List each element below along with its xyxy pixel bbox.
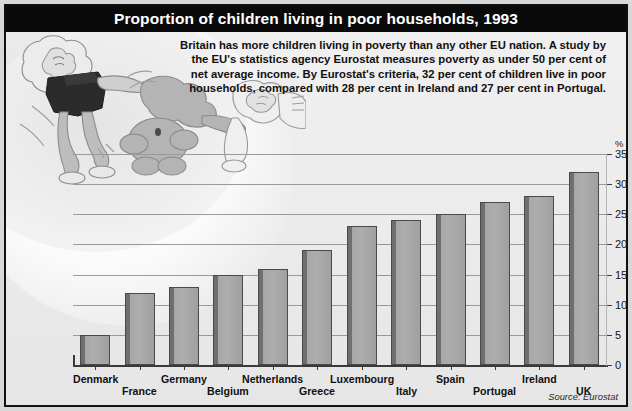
bar-netherlands <box>258 269 288 365</box>
x-axis-label-denmark: Denmark <box>73 373 118 385</box>
y-tick <box>607 335 612 336</box>
y-axis-label-30: 30 <box>615 179 626 190</box>
bar-spain <box>436 214 466 365</box>
bar-face <box>169 287 199 365</box>
x-axis-label-ireland: Ireland <box>522 373 557 385</box>
y-tick <box>607 365 612 366</box>
y-tick <box>607 244 612 245</box>
bar-face <box>436 214 466 365</box>
bar-chart: DenmarkFranceGermanyBelgiumNetherlandsGr… <box>6 32 626 405</box>
bar-face <box>480 202 510 365</box>
y-axis-label-15: 15 <box>615 270 626 281</box>
y-axis-label-0: 0 <box>615 360 621 371</box>
content-panel: Britain has more children living in pove… <box>6 32 626 405</box>
x-axis-label-netherlands: Netherlands <box>242 373 303 385</box>
gridline <box>73 184 606 185</box>
y-axis-label-5: 5 <box>615 330 621 341</box>
x-axis-label-germany: Germany <box>161 373 207 385</box>
page-title: Proportion of children living in poor ho… <box>6 6 626 32</box>
bar-belgium <box>213 275 243 365</box>
x-axis-line <box>73 365 608 367</box>
bar-denmark <box>80 335 110 365</box>
title-bar: Proportion of children living in poor ho… <box>6 6 626 32</box>
y-tick <box>607 214 612 215</box>
bar-portugal <box>480 202 510 365</box>
gridline <box>73 154 606 155</box>
bar-face <box>80 335 110 365</box>
source-note: Source: Eurostat <box>548 391 618 402</box>
x-axis-label-spain: Spain <box>436 373 465 385</box>
x-axis-label-belgium: Belgium <box>207 385 249 397</box>
y-tick <box>607 305 612 306</box>
x-axis-label-france: France <box>122 385 157 397</box>
y-axis-unit-label: % <box>615 138 623 149</box>
y-axis-label-10: 10 <box>615 300 626 311</box>
x-axis-label-luxembourg: Luxembourg <box>330 373 394 385</box>
y-tick <box>607 275 612 276</box>
infographic-page: Proportion of children living in poor ho… <box>0 0 632 411</box>
bar-face <box>391 220 421 365</box>
y-axis-label-35: 35 <box>615 149 626 160</box>
bar-italy <box>391 220 421 365</box>
bar-uk <box>569 172 599 365</box>
bar-face <box>524 196 554 365</box>
bar-germany <box>169 287 199 365</box>
bar-luxembourg <box>347 226 377 365</box>
bar-france <box>125 293 155 365</box>
bar-face <box>302 250 332 365</box>
y-axis-line <box>73 355 75 366</box>
x-axis-label-italy: Italy <box>396 385 417 397</box>
bar-face <box>258 269 288 365</box>
bar-face <box>213 275 243 365</box>
bar-face <box>347 226 377 365</box>
bar-ireland <box>524 196 554 365</box>
x-axis-label-greece: Greece <box>299 385 335 397</box>
bar-face <box>125 293 155 365</box>
y-tick <box>607 154 612 155</box>
y-axis-label-20: 20 <box>615 239 626 250</box>
bar-face <box>569 172 599 365</box>
y-tick <box>607 184 612 185</box>
y-axis-label-25: 25 <box>615 209 626 220</box>
bar-greece <box>302 250 332 365</box>
x-axis-label-portugal: Portugal <box>473 385 516 397</box>
